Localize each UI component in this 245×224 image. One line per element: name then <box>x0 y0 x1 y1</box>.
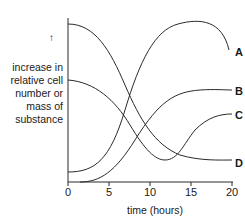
label-d: D <box>235 157 243 169</box>
x-tick: 20 <box>226 186 238 198</box>
x-tick: 10 <box>144 186 156 198</box>
label-c: C <box>235 109 243 121</box>
curve-a <box>68 21 229 172</box>
chart-plot <box>0 0 245 224</box>
label-a: A <box>235 46 243 58</box>
x-axis-label: time (hours) <box>127 204 183 216</box>
curve-c <box>68 80 232 160</box>
x-tick: 5 <box>106 186 112 198</box>
curve-b <box>80 90 232 182</box>
x-tick: 15 <box>185 186 197 198</box>
x-tick: 0 <box>65 186 71 198</box>
label-b: B <box>235 85 243 97</box>
curve-d <box>68 24 232 160</box>
